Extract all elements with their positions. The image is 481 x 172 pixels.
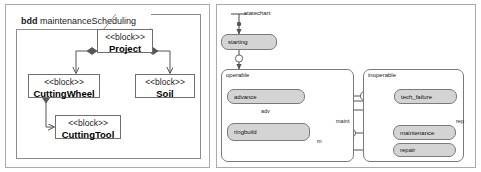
block-cuttingtool[interactable]: <<block>> CuttingTool <box>55 115 121 139</box>
statechart-title: statechart <box>244 10 270 16</box>
block-project-name: Project <box>98 43 152 55</box>
state-advance-label: advance <box>234 94 257 100</box>
block-cuttingtool-name: CuttingTool <box>56 129 120 141</box>
state-maintenance-label: maintenance <box>400 130 434 136</box>
state-tech-failure-label: tech_failure <box>401 94 432 100</box>
state-starting[interactable]: starting <box>221 34 277 50</box>
state-advance[interactable]: advance <box>227 89 305 104</box>
transition-label-rep: rep <box>456 118 464 124</box>
figure-root: bdd maintenanceScheduling <box>0 0 481 172</box>
region-inoperable-label: inoperable <box>368 72 396 79</box>
state-repair[interactable]: repair <box>393 143 456 157</box>
block-cuttingtool-stereotype: <<block>> <box>56 118 120 129</box>
block-soil-stereotype: <<block>> <box>136 77 194 88</box>
state-repair-label: repair <box>400 147 415 153</box>
transition-label-maint: maint <box>336 118 349 124</box>
state-tech-failure[interactable]: tech_failure <box>394 89 457 104</box>
block-cuttingwheel-name: CuttingWheel <box>29 88 99 100</box>
state-ringbuild-label: ringbuild <box>234 129 257 135</box>
transition-label-adv: adv <box>261 108 270 114</box>
block-cuttingwheel[interactable]: <<block>> CuttingWheel <box>28 74 100 98</box>
block-soil-name: Soil <box>136 88 194 100</box>
block-project-stereotype: <<block>> <box>98 32 152 43</box>
state-maintenance[interactable]: maintenance <box>393 125 456 140</box>
state-starting-label: starting <box>228 39 248 45</box>
transition-label-m: m <box>317 138 322 144</box>
state-ringbuild[interactable]: ringbuild <box>227 123 310 141</box>
state-machine-diagram-panel: H statechart <box>216 4 476 168</box>
block-cuttingwheel-stereotype: <<block>> <box>29 77 99 88</box>
block-definition-diagram-panel: bdd maintenanceScheduling <box>5 4 210 168</box>
block-soil[interactable]: <<block>> Soil <box>135 74 195 98</box>
region-operable-label: operable <box>226 72 249 79</box>
block-project[interactable]: <<block>> Project <box>97 29 153 53</box>
region-operable <box>221 69 354 162</box>
